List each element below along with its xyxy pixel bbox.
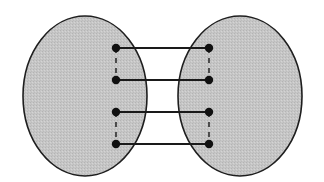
left-node-0: [112, 44, 120, 52]
right-node-2: [205, 108, 213, 116]
sets-layer: [23, 16, 302, 176]
bipartite-diagram: [0, 0, 324, 182]
right-node-1: [205, 76, 213, 84]
right-node-0: [205, 44, 213, 52]
left-set-ellipse: [23, 16, 147, 176]
left-node-2: [112, 108, 120, 116]
right-node-3: [205, 140, 213, 148]
left-node-1: [112, 76, 120, 84]
right-set-ellipse: [178, 16, 302, 176]
left-node-3: [112, 140, 120, 148]
